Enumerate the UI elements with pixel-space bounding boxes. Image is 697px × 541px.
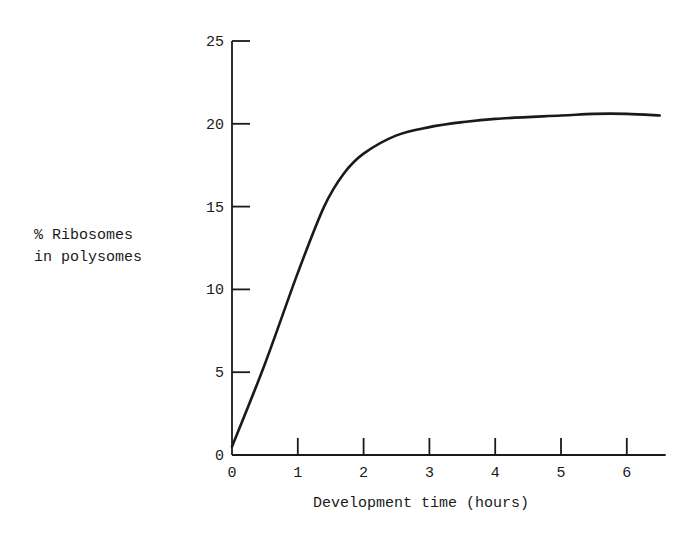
y-tick-label: 10 <box>206 282 224 299</box>
x-tick-label: 6 <box>622 465 631 482</box>
axes: 05101520250123456 <box>206 34 666 482</box>
x-axis-label: Development time (hours) <box>313 495 529 512</box>
x-tick-label: 0 <box>227 465 236 482</box>
y-axis-label: % Ribosomesin polysomes <box>34 225 142 269</box>
x-tick-label: 1 <box>293 465 302 482</box>
y-tick-label: 15 <box>206 200 224 217</box>
y-tick-label: 5 <box>215 365 224 382</box>
line-chart: 05101520250123456 <box>0 0 697 541</box>
x-tick-label: 4 <box>491 465 500 482</box>
y-tick-label: 20 <box>206 117 224 134</box>
x-tick-label: 3 <box>425 465 434 482</box>
data-line <box>232 114 660 447</box>
x-tick-label: 2 <box>359 465 368 482</box>
y-axis-label-line-1: % Ribosomes <box>34 227 133 244</box>
y-tick-label: 0 <box>215 448 224 465</box>
x-tick-label: 5 <box>556 465 565 482</box>
y-tick-label: 25 <box>206 34 224 51</box>
y-axis-label-line-2: in polysomes <box>34 249 142 266</box>
